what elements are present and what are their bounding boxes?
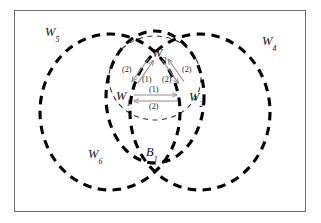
region-label-b1-base: B [146, 145, 154, 159]
region-label-w5-subscript: 5 [55, 35, 59, 44]
right-set-circle [130, 34, 270, 190]
region-label-b1-subscript: 1 [154, 155, 158, 164]
region-label-w5-base: W [45, 25, 55, 39]
node-label-w3: W3 [152, 47, 166, 62]
edge-label-w1-w3-outer: (2) [122, 66, 132, 74]
node-label-w2-subscript: 2 [199, 100, 203, 109]
edge-label-w1-w2-top: (1) [149, 86, 159, 94]
node-label-w2: W2 [189, 91, 203, 106]
region-label-w6: W6 [88, 148, 102, 163]
region-label-w6-base: W [88, 147, 98, 161]
region-label-w5: W5 [45, 26, 59, 41]
node-label-w1-subscript: 1 [126, 99, 130, 108]
node-label-w1: W1 [116, 90, 130, 105]
node-label-w2-base: W [189, 90, 199, 104]
node-label-w3-base: W [152, 46, 162, 60]
figure-root: W5 W4 W6 B1 W3 W1 W2 (2) (1) (2) (2) (1)… [0, 0, 321, 223]
region-label-w4-subscript: 4 [272, 44, 276, 53]
region-label-b1: B1 [146, 146, 158, 161]
node-label-w1-base: W [116, 89, 126, 103]
node-label-w3-subscript: 3 [162, 56, 166, 65]
edge-label-w3-w2-outer: (2) [182, 66, 192, 74]
edge-label-w1-w3-inner: (1) [142, 76, 152, 84]
edge-label-w3-w2-inner: (2) [162, 76, 172, 84]
region-label-w4: W4 [262, 35, 276, 50]
edge-label-w1-w2-bottom: (2) [149, 103, 159, 111]
region-label-w6-subscript: 6 [98, 157, 102, 166]
region-label-w4-base: W [262, 34, 272, 48]
